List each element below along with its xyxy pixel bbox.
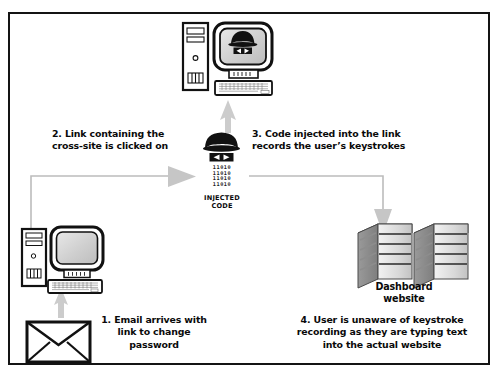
injected-code-label: INJECTED CODE	[186, 194, 258, 211]
victim-computer	[22, 227, 103, 293]
injected-code-binary: 11010 11010 11010 11010	[198, 165, 246, 187]
caption-step-3: 3. Code injected into the link records t…	[252, 128, 442, 153]
caption-step-4: 4. User is unaware of keystroke recordin…	[282, 314, 482, 351]
caption-step-2: 2. Link containing the cross-site is cli…	[52, 128, 216, 153]
server-tower-icon	[414, 224, 468, 288]
attacker-computer	[183, 23, 272, 95]
diagram-root: 11010 11010 11010 11010 INJECTED CODE Da…	[0, 0, 502, 379]
arrow-injected-code-to-dashboard	[249, 176, 392, 234]
dashboard-label: Dashboard website	[348, 281, 460, 305]
envelope-icon	[27, 322, 90, 362]
caption-step-1: 1. Email arrives with link to change pas…	[88, 314, 220, 351]
dashboard-servers	[358, 224, 468, 288]
server-tower-icon	[358, 224, 412, 288]
arrow-injected-code-to-attacker	[220, 100, 236, 133]
